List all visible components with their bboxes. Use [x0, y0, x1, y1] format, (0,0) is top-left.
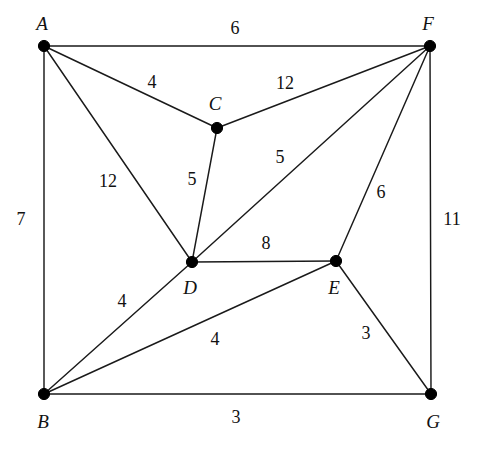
- vertex-d[interactable]: [186, 256, 197, 267]
- edge-a-d: [44, 46, 192, 262]
- edge-d-f: [192, 46, 430, 262]
- edge-d-e: [192, 261, 336, 262]
- vertex-f[interactable]: [424, 40, 435, 51]
- vertex-label-d: D: [182, 277, 197, 298]
- vertex-c[interactable]: [211, 122, 222, 133]
- vertex-labels-layer: ABCDEFG: [34, 13, 440, 432]
- edge-e-f: [336, 46, 430, 261]
- edge-c-f: [217, 46, 430, 128]
- edge-weight-a-f: 6: [231, 18, 240, 38]
- edge-weight-c-d: 5: [188, 169, 197, 189]
- edge-weight-b-g: 3: [232, 407, 241, 427]
- edge-weight-e-f: 6: [377, 182, 386, 202]
- vertex-label-a: A: [34, 13, 48, 34]
- edge-a-c: [44, 46, 217, 128]
- edge-weight-f-g: 11: [443, 209, 460, 229]
- edge-weight-e-b: 4: [211, 329, 220, 349]
- vertex-label-g: G: [426, 411, 440, 432]
- vertex-label-e: E: [327, 277, 340, 298]
- edge-weight-c-f: 12: [276, 73, 294, 93]
- edge-weight-a-b: 7: [17, 209, 26, 229]
- vertex-e[interactable]: [330, 255, 341, 266]
- edge-f-g: [430, 46, 431, 394]
- edge-weight-a-c: 4: [148, 72, 157, 92]
- vertex-label-b: B: [37, 411, 49, 432]
- edge-d-b: [44, 262, 192, 394]
- edges-layer: [44, 46, 431, 394]
- edge-weight-d-e: 8: [262, 233, 271, 253]
- vertex-label-f: F: [421, 13, 434, 34]
- graph-figure: 64127125584643113 ABCDEFG: [0, 0, 477, 453]
- edge-weight-e-g: 3: [362, 323, 371, 343]
- vertex-a[interactable]: [38, 40, 49, 51]
- edge-e-g: [336, 261, 431, 394]
- vertex-g[interactable]: [425, 388, 436, 399]
- graph-canvas: 64127125584643113 ABCDEFG: [0, 0, 477, 453]
- edge-weight-d-b: 4: [118, 291, 127, 311]
- edge-weight-a-d: 12: [99, 171, 117, 191]
- vertex-label-c: C: [209, 93, 222, 114]
- vertex-b[interactable]: [38, 388, 49, 399]
- edge-weight-d-f: 5: [276, 147, 285, 167]
